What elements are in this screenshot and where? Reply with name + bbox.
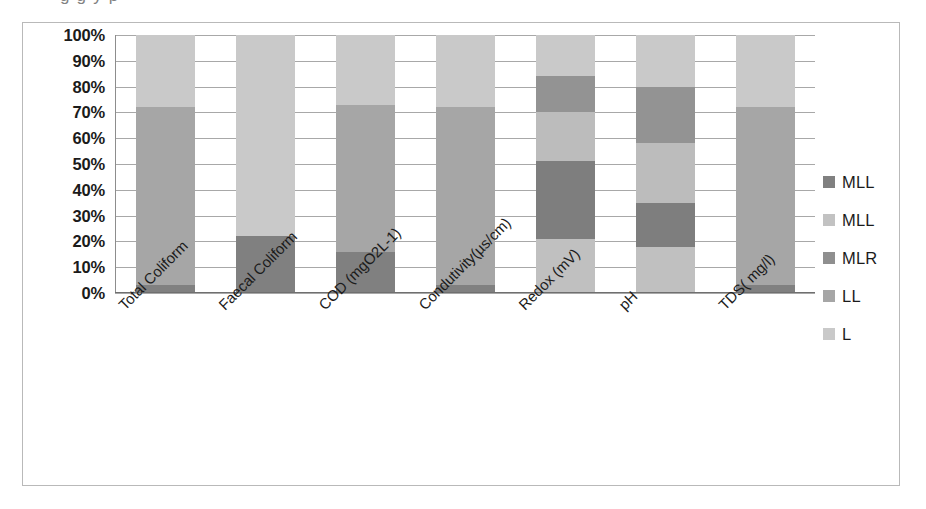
- bar-segment[interactable]: [636, 203, 695, 247]
- bar-segment[interactable]: [736, 35, 795, 107]
- bar-segment[interactable]: [436, 35, 495, 107]
- y-tick-label: 30%: [73, 206, 105, 225]
- bar-segment[interactable]: [636, 87, 695, 144]
- bar-segment[interactable]: [536, 161, 595, 238]
- y-tick-label: 60%: [73, 129, 105, 148]
- x-tick-label-slot: Redox (mV): [515, 295, 615, 415]
- legend-item[interactable]: MLR: [823, 239, 903, 277]
- legend-item[interactable]: LL: [823, 277, 903, 315]
- x-tick-label-slot: Condutivity(µs/cm): [415, 295, 515, 415]
- y-tick-label: 0%: [82, 284, 105, 303]
- y-tick-label: 100%: [64, 26, 105, 45]
- legend-label: MLL: [842, 173, 875, 192]
- bar-segment[interactable]: [336, 35, 395, 105]
- legend-swatch-icon: [823, 290, 835, 302]
- legend-item[interactable]: L: [823, 315, 903, 353]
- y-tick-label: 40%: [73, 180, 105, 199]
- legend-label: LL: [842, 287, 861, 306]
- legend-item[interactable]: MLL: [823, 201, 903, 239]
- y-tick-label: 80%: [73, 77, 105, 96]
- legend-item[interactable]: MLL: [823, 163, 903, 201]
- bar-segment[interactable]: [636, 143, 695, 202]
- x-tick-label-slot: TDS( mg/l): [715, 295, 815, 415]
- bar-segment[interactable]: [536, 35, 595, 76]
- bar-segment[interactable]: [536, 76, 595, 112]
- legend-swatch-icon: [823, 328, 835, 340]
- y-axis: 100%90%80%70%60%50%40%30%20%10%0%: [23, 35, 109, 293]
- gridline: [115, 293, 815, 294]
- x-tick-label-slot: Faecal Coliform: [215, 295, 315, 415]
- chart-legend: MLLMLLMLRLLL: [823, 163, 903, 353]
- x-axis-line: [115, 292, 815, 293]
- legend-swatch-icon: [823, 214, 835, 226]
- legend-label: MLL: [842, 211, 875, 230]
- chart-frame: 100%90%80%70%60%50%40%30%20%10%0% Total …: [22, 22, 900, 486]
- bar-stack[interactable]: [636, 35, 695, 293]
- legend-label: MLR: [842, 249, 877, 268]
- x-tick-label-slot: Total Coliform: [115, 295, 215, 415]
- y-tick-label: 70%: [73, 103, 105, 122]
- y-tick-label: 20%: [73, 232, 105, 251]
- bar-segment[interactable]: [236, 35, 295, 236]
- bar-segment[interactable]: [636, 35, 695, 87]
- legend-swatch-icon: [823, 252, 835, 264]
- x-axis: Total ColiformFaecal ColiformCOD (mgO2L-…: [115, 295, 815, 415]
- y-tick-label: 90%: [73, 51, 105, 70]
- x-tick-label-slot: COD (mgO2L-1): [315, 295, 415, 415]
- y-tick-label: 50%: [73, 155, 105, 174]
- legend-swatch-icon: [823, 176, 835, 188]
- bar-segment[interactable]: [536, 112, 595, 161]
- legend-label: L: [842, 325, 851, 344]
- top-caption-fragment: g g y p: [60, 0, 860, 4]
- x-tick-label-slot: pH: [615, 295, 715, 415]
- bar-slot: [615, 35, 715, 293]
- bar-segment[interactable]: [636, 247, 695, 293]
- bar-segment[interactable]: [136, 35, 195, 107]
- y-tick-label: 10%: [73, 258, 105, 277]
